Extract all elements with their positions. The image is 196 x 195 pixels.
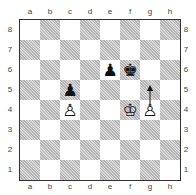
square-g5[interactable] — [140, 80, 160, 100]
square-d7[interactable] — [80, 40, 100, 60]
file-label-d-bottom: d — [80, 182, 100, 192]
square-h4[interactable] — [160, 100, 180, 120]
file-label-b-top: b — [40, 7, 60, 17]
square-e3[interactable] — [100, 120, 120, 140]
file-label-f-bottom: f — [120, 182, 140, 192]
square-a6[interactable] — [20, 60, 40, 80]
square-c8[interactable] — [60, 20, 80, 40]
square-d1[interactable] — [80, 160, 100, 180]
square-h6[interactable] — [160, 60, 180, 80]
square-f5[interactable] — [120, 80, 140, 100]
square-d5[interactable] — [80, 80, 100, 100]
square-g2[interactable] — [140, 140, 160, 160]
file-label-e-bottom: e — [100, 182, 120, 192]
square-d2[interactable] — [80, 140, 100, 160]
square-g8[interactable] — [140, 20, 160, 40]
square-h2[interactable] — [160, 140, 180, 160]
square-g6[interactable] — [140, 60, 160, 80]
square-h1[interactable] — [160, 160, 180, 180]
square-f6[interactable]: ♚ — [120, 60, 140, 80]
file-label-e-top: e — [100, 7, 120, 17]
square-b1[interactable] — [40, 160, 60, 180]
square-b8[interactable] — [40, 20, 60, 40]
square-d6[interactable] — [80, 60, 100, 80]
square-c2[interactable] — [60, 140, 80, 160]
file-label-d-top: d — [80, 7, 100, 17]
square-f7[interactable] — [120, 40, 140, 60]
square-f4[interactable]: ♔ — [120, 100, 140, 120]
square-b2[interactable] — [40, 140, 60, 160]
square-h3[interactable] — [160, 120, 180, 140]
black-pawn-icon[interactable]: ♟ — [60, 80, 80, 100]
square-e4[interactable] — [100, 100, 120, 120]
square-a1[interactable] — [20, 160, 40, 180]
rank-label-8-left: 8 — [0, 25, 20, 35]
white-pawn-icon[interactable]: ♙ — [60, 100, 80, 120]
square-b6[interactable] — [40, 60, 60, 80]
file-label-a-top: a — [20, 7, 40, 17]
rank-label-7-left: 7 — [0, 45, 20, 55]
rank-label-5-left: 5 — [0, 85, 20, 95]
square-c7[interactable] — [60, 40, 80, 60]
rank-label-6-left: 6 — [0, 65, 20, 75]
square-d3[interactable] — [80, 120, 100, 140]
square-f1[interactable] — [120, 160, 140, 180]
file-label-h-top: h — [160, 7, 180, 17]
square-a4[interactable] — [20, 100, 40, 120]
square-e6[interactable]: ♟ — [100, 60, 120, 80]
square-b4[interactable] — [40, 100, 60, 120]
square-b3[interactable] — [40, 120, 60, 140]
square-d4[interactable] — [80, 100, 100, 120]
rank-label-4-left: 4 — [0, 105, 20, 115]
square-a3[interactable] — [20, 120, 40, 140]
file-label-f-top: f — [120, 7, 140, 17]
square-c6[interactable] — [60, 60, 80, 80]
square-b5[interactable] — [40, 80, 60, 100]
square-h8[interactable] — [160, 20, 180, 40]
square-f8[interactable] — [120, 20, 140, 40]
square-e7[interactable] — [100, 40, 120, 60]
square-g1[interactable] — [140, 160, 160, 180]
rank-label-3-left: 3 — [0, 125, 20, 135]
black-pawn-icon[interactable]: ♟ — [100, 60, 120, 80]
white-pawn-icon[interactable]: ♙ — [140, 100, 160, 120]
chess-board[interactable]: ♟♚♟♙♔♙ — [19, 19, 181, 181]
square-g7[interactable] — [140, 40, 160, 60]
file-label-c-bottom: c — [60, 182, 80, 192]
file-label-g-top: g — [140, 7, 160, 17]
file-label-c-top: c — [60, 7, 80, 17]
square-f2[interactable] — [120, 140, 140, 160]
white-king-icon[interactable]: ♔ — [120, 100, 140, 120]
square-g4[interactable]: ♙ — [140, 100, 160, 120]
square-a5[interactable] — [20, 80, 40, 100]
square-f3[interactable] — [120, 120, 140, 140]
square-c5[interactable]: ♟ — [60, 80, 80, 100]
square-e5[interactable] — [100, 80, 120, 100]
square-e1[interactable] — [100, 160, 120, 180]
square-a8[interactable] — [20, 20, 40, 40]
rank-label-2-left: 2 — [0, 145, 20, 155]
square-a2[interactable] — [20, 140, 40, 160]
square-h7[interactable] — [160, 40, 180, 60]
file-label-a-bottom: a — [20, 182, 40, 192]
square-a7[interactable] — [20, 40, 40, 60]
black-king-icon[interactable]: ♚ — [120, 60, 140, 80]
file-label-b-bottom: b — [40, 182, 60, 192]
file-label-g-bottom: g — [140, 182, 160, 192]
square-d8[interactable] — [80, 20, 100, 40]
square-c1[interactable] — [60, 160, 80, 180]
square-g3[interactable] — [140, 120, 160, 140]
square-c3[interactable] — [60, 120, 80, 140]
square-e2[interactable] — [100, 140, 120, 160]
square-b7[interactable] — [40, 40, 60, 60]
file-label-h-bottom: h — [160, 182, 180, 192]
square-e8[interactable] — [100, 20, 120, 40]
rank-label-1-left: 1 — [0, 165, 20, 175]
square-c4[interactable]: ♙ — [60, 100, 80, 120]
square-h5[interactable] — [160, 80, 180, 100]
